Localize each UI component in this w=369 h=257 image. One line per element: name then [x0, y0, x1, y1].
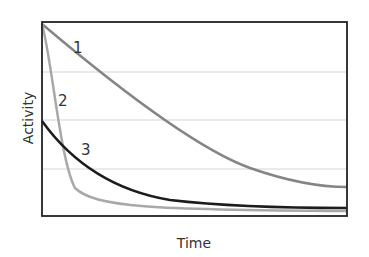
chart: 1 2 3 Time Activity — [0, 0, 369, 257]
y-axis-label: Activity — [20, 92, 36, 144]
plot-frame — [42, 22, 347, 216]
curve-label-3: 3 — [81, 141, 91, 159]
curve-1 — [42, 24, 347, 187]
curve-label-1: 1 — [73, 39, 83, 57]
curve-label-2: 2 — [58, 92, 68, 110]
x-axis-label: Time — [176, 235, 211, 251]
